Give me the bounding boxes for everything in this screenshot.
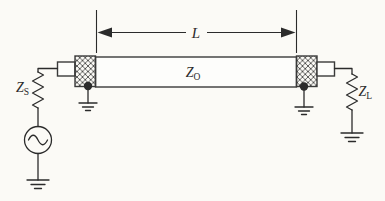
connector-shell-left bbox=[75, 56, 96, 87]
source-impedance-sub: S bbox=[24, 87, 29, 97]
connector-shell-right bbox=[297, 56, 318, 87]
figure-canvas: L ZO bbox=[0, 0, 385, 201]
pin-right bbox=[317, 62, 335, 76]
circuit-diagram: L ZO bbox=[0, 0, 385, 201]
line-impedance-main: Z bbox=[186, 65, 194, 80]
source-impedance-main: Z bbox=[16, 80, 24, 95]
line-impedance-sub: O bbox=[193, 72, 200, 82]
length-label: L bbox=[191, 25, 200, 41]
pin-left bbox=[58, 62, 76, 76]
transmission-line: ZO bbox=[96, 57, 297, 87]
load-impedance-main: Z bbox=[359, 84, 367, 99]
load-impedance-sub: L bbox=[366, 91, 372, 101]
